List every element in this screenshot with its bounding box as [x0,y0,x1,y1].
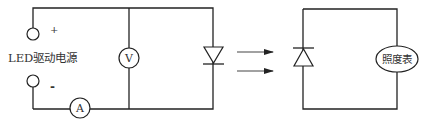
minus-terminal-icon [27,75,39,87]
left-circuit: + - LED驱动电源 V A [8,8,224,118]
circuit-diagram: + - LED驱动电源 V A 照度表 [0,0,428,123]
photodiode-icon [293,48,314,66]
plus-terminal-icon [27,28,39,40]
right-loop-wire [303,9,397,46]
light-arrows [237,52,273,71]
source-label: LED驱动电源 [8,51,78,65]
ammeter-label: A [75,102,85,115]
minus-sign: - [50,80,55,94]
lux-meter-label: 照度表 [382,53,413,65]
plus-sign: + [50,24,58,35]
led-diode-icon [203,47,224,64]
voltmeter-label: V [124,52,134,65]
right-circuit: 照度表 [293,9,418,109]
